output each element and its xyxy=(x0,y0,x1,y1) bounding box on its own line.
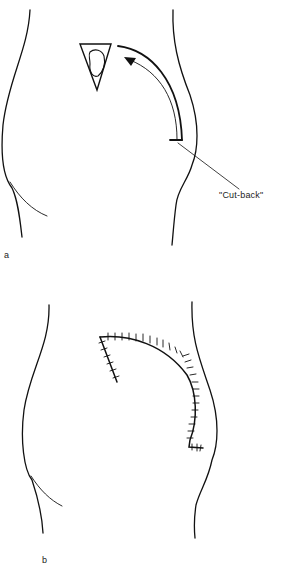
cut-back-callout: "Cut-back" xyxy=(219,190,263,200)
figure-a xyxy=(2,10,239,245)
sutured-branch xyxy=(100,337,117,382)
figure-b-label: b xyxy=(42,555,47,565)
figure-b xyxy=(22,302,217,538)
rotation-arrow xyxy=(130,60,177,139)
body-outline-left xyxy=(2,10,30,237)
cut-back-leader-line xyxy=(178,143,239,189)
body-outline-right xyxy=(172,10,197,245)
figure-a-label: a xyxy=(4,250,9,260)
body-outline-left xyxy=(22,305,49,533)
diagram-canvas xyxy=(0,0,281,579)
body-outline-right xyxy=(192,302,217,538)
triangular-defect xyxy=(80,44,111,90)
sutured-flap-closure xyxy=(100,337,203,448)
suture-stitches xyxy=(99,333,201,451)
